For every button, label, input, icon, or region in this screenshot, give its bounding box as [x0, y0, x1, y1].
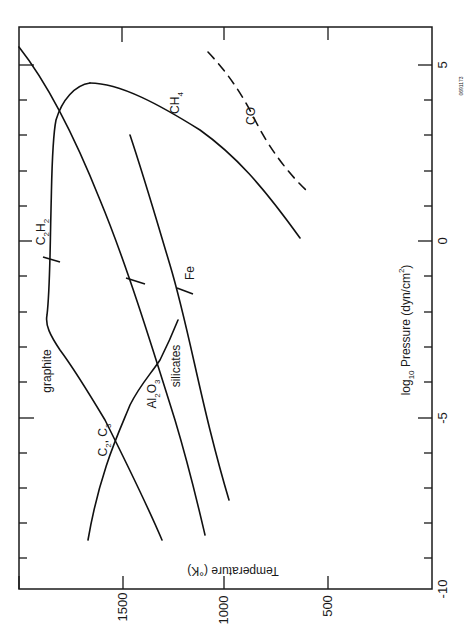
temperature-axis-ticks	[19, 576, 328, 589]
pressure-axis-title: log10 Pressure (dyn/cm2)	[397, 265, 416, 396]
temp-tick-500: 500	[320, 595, 335, 617]
pressure-tick-0: 0	[435, 237, 450, 244]
fe-curve	[130, 135, 229, 500]
temperature-axis-title: Temperature (°K)	[187, 564, 279, 578]
temp-tick-1500: 1500	[115, 593, 130, 622]
ch4-curve	[90, 83, 300, 238]
label-silicates: silicates	[169, 345, 183, 388]
pressure-tick-5: 5	[435, 61, 450, 68]
fe-marker	[177, 288, 193, 294]
condensation-curves-chart: 5 0 -5 -10 1500 1000 500 log10 Pressure …	[0, 0, 469, 642]
left-ticks	[19, 65, 34, 558]
c2h2-marker	[43, 257, 60, 262]
label-al2o3: Al2O3	[145, 379, 162, 408]
figure-id: 0691173	[458, 76, 464, 95]
temp-tick-1000: 1000	[216, 596, 231, 625]
label-c2h2: C2H2	[34, 218, 51, 245]
label-graphite: graphite	[40, 349, 54, 393]
top-ticks	[122, 27, 328, 42]
temperature-tick-labels: 1500 1000 500	[115, 593, 335, 625]
label-co: CO	[244, 107, 258, 125]
curve-labels: C2H2 graphite C2, C3 Al2O3 silicates Fe …	[34, 92, 258, 457]
plot-frame	[19, 27, 432, 589]
pressure-tick-minus5: -5	[435, 412, 450, 424]
pressure-tick-minus10: -10	[435, 580, 450, 599]
curve-markers	[43, 257, 193, 294]
pressure-axis-ticks	[418, 65, 432, 558]
label-ch4: CH4	[168, 92, 185, 114]
label-fe: Fe	[183, 266, 197, 280]
al2o3-marker	[126, 278, 145, 284]
pressure-tick-labels: 5 0 -5 -10	[435, 61, 450, 598]
